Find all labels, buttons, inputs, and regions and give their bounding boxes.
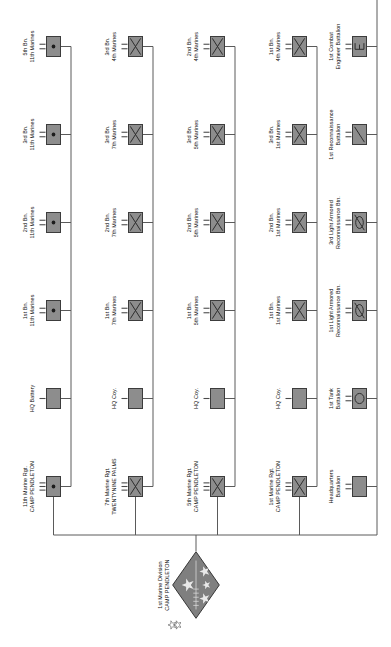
unit-label-line2: Amphibian Battalion — [335, 0, 341, 2]
infantry-symbol-icon — [128, 476, 143, 497]
subunit-7th-marine-rgt-0[interactable]: HQ Coy. — [128, 388, 143, 409]
infantry-symbol-icon — [128, 300, 143, 321]
regiment-7th-marine-rgt[interactable]: 7th Marine Rgt.TWENTYNINE PALMS — [128, 476, 143, 497]
echelon-marker — [120, 213, 129, 232]
subunit-1st-marine-rgt-1[interactable]: 1st Bn.1st Marines — [292, 300, 307, 321]
unit-label-line1: 1st Combat — [328, 32, 334, 61]
unit-label-line2: 11th Marines — [29, 92, 35, 178]
unit-label-line2: 5th Marines — [193, 92, 199, 178]
echelon-marker — [202, 389, 211, 408]
infantry-symbol-icon — [128, 124, 143, 145]
separate-battalion-4[interactable]: 1st ReconnaissanceBattalion — [352, 124, 367, 145]
unit-label-line2: 7th Marines — [111, 268, 117, 354]
echelon-marker — [120, 37, 129, 56]
unit-label-line2: 4th Marines — [111, 4, 117, 90]
echelon-marker — [120, 301, 129, 320]
unit-nodes-layer: 11th Marine Rgt.CAMP PENDLETONHQ Battery… — [0, 0, 391, 647]
subunit-1st-marine-rgt-3-label: 3rd Bn.1st Marines — [268, 92, 281, 178]
unit-label-line1: 2nd Bn. — [268, 213, 274, 232]
subunit-5th-marine-rgt-3[interactable]: 3rd Bn.5th Marines — [210, 124, 225, 145]
artillery-symbol-icon — [46, 476, 61, 497]
subunit-5th-marine-rgt-3-label: 3rd Bn.5th Marines — [186, 92, 199, 178]
artillery-symbol-icon — [46, 36, 61, 57]
unit-label-line1: 3rd Bn. — [268, 125, 274, 143]
echelon-marker — [120, 477, 129, 496]
subunit-11th-marine-rgt-3-label: 3rd Bn.11th Marines — [22, 92, 35, 178]
unit-label-line2: 4th Marines — [275, 4, 281, 90]
recon-symbol-icon — [352, 124, 367, 145]
plain-symbol-icon — [46, 388, 61, 409]
infantry-symbol-icon — [210, 36, 225, 57]
infantry-symbol-icon — [210, 212, 225, 233]
unit-label-line2: Engineer Battalion — [335, 4, 341, 90]
subunit-7th-marine-rgt-1[interactable]: 1st Bn.7th Marines — [128, 300, 143, 321]
separate-battalion-3-label: 3rd Light ArmoredReconnaissance Btn. — [328, 180, 341, 266]
echelon-marker — [344, 477, 353, 496]
unit-label-line2: 7th Marines — [111, 92, 117, 178]
subunit-5th-marine-rgt-2-label: 2nd Bn.5th Marines — [186, 180, 199, 266]
unit-label-line2: 7th Marines — [111, 180, 117, 266]
subunit-7th-marine-rgt-3[interactable]: 3rd Bn.7th Marines — [128, 124, 143, 145]
unit-label-line1: 11th Marine Rgt. — [22, 466, 28, 507]
infantry-symbol-icon — [292, 300, 307, 321]
unit-label-line2: Battalion — [335, 444, 341, 530]
subunit-1st-marine-rgt-4-label: 1st Bn.4th Marines — [268, 4, 281, 90]
subunit-1st-marine-rgt-2-label: 2nd Bn.1st Marines — [268, 180, 281, 266]
subunit-11th-marine-rgt-1[interactable]: 1st Bn.11th Marines — [46, 300, 61, 321]
unit-label-line1: 1st Bn. — [268, 38, 274, 55]
unit-label-line2: 4th Marines — [193, 4, 199, 90]
echelon-marker — [284, 213, 293, 232]
echelon-marker — [120, 125, 129, 144]
unit-label-line2: Reconnaissance Btn. — [335, 268, 341, 354]
echelon-marker — [284, 37, 293, 56]
subunit-1st-marine-rgt-2[interactable]: 2nd Bn.1st Marines — [292, 212, 307, 233]
subunit-1st-marine-rgt-0[interactable]: HQ Coy. — [292, 388, 307, 409]
separate-battalion-0-label: HeadquartersBattalion — [328, 444, 341, 530]
separate-battalion-5[interactable]: 1st CombatEngineer Battalion — [352, 36, 367, 57]
regiment-11th-marine-rgt[interactable]: 11th Marine Rgt.CAMP PENDLETON — [46, 476, 61, 497]
unit-label-line1: 1st Bn. — [186, 302, 192, 319]
unit-label-line2: Battalion — [335, 92, 341, 178]
division-location: CAMP PENDLETON — [164, 530, 170, 640]
subunit-5th-marine-rgt-1-label: 1st Bn.5th Marines — [186, 268, 199, 354]
unit-label-line2: CAMP PENDLETON — [193, 444, 199, 530]
echelon-marker — [38, 477, 47, 496]
subunit-11th-marine-rgt-4[interactable]: 5th Bn.11th Marines — [46, 36, 61, 57]
subunit-7th-marine-rgt-2[interactable]: 2nd Bn.7th Marines — [128, 212, 143, 233]
chart-viewport: 11th Marine Rgt.CAMP PENDLETONHQ Battery… — [0, 0, 391, 647]
subunit-5th-marine-rgt-1[interactable]: 1st Bn.5th Marines — [210, 300, 225, 321]
unit-label-line1: 2nd Bn. — [104, 213, 110, 232]
separate-battalion-2[interactable]: 1st Light ArmoredReconnaissance Btn. — [352, 300, 367, 321]
unit-label-line1: 5th Marine Rgt. — [186, 467, 192, 505]
unit-label-line1: HQ Battery — [29, 385, 35, 413]
regiment-7th-marine-rgt-label: 7th Marine Rgt.TWENTYNINE PALMS — [104, 444, 117, 530]
regiment-1st-marine-rgt[interactable]: 1st Marine Rgt.CAMP PENDLETON — [292, 476, 307, 497]
subunit-1st-marine-rgt-4[interactable]: 1st Bn.4th Marines — [292, 36, 307, 57]
division-label: 1st Marine Division CAMP PENDLETON — [157, 530, 170, 640]
separate-battalion-0[interactable]: HeadquartersBattalion — [352, 476, 367, 497]
subunit-11th-marine-rgt-2[interactable]: 2nd Bn.11th Marines — [46, 212, 61, 233]
separate-battalion-1[interactable]: 1st TankBattalion — [352, 388, 367, 409]
unit-label-line1: 1st Reconnaissance — [328, 109, 334, 159]
subunit-11th-marine-rgt-0[interactable]: HQ Battery — [46, 388, 61, 409]
unit-label-line1: 1st Bn. — [104, 302, 110, 319]
subunit-7th-marine-rgt-2-label: 2nd Bn.7th Marines — [104, 180, 117, 266]
unit-label-line2: CAMP PENDLETON — [275, 444, 281, 530]
subunit-7th-marine-rgt-1-label: 1st Bn.7th Marines — [104, 268, 117, 354]
subunit-5th-marine-rgt-2[interactable]: 2nd Bn.5th Marines — [210, 212, 225, 233]
separate-battalion-3[interactable]: 3rd Light ArmoredReconnaissance Btn. — [352, 212, 367, 233]
regiment-5th-marine-rgt[interactable]: 5th Marine Rgt.CAMP PENDLETON — [210, 476, 225, 497]
subunit-5th-marine-rgt-0[interactable]: HQ Coy. — [210, 388, 225, 409]
unit-label-line1: 1st Bn. — [22, 302, 28, 319]
subunit-11th-marine-rgt-3[interactable]: 3rd Bn.11th Marines — [46, 124, 61, 145]
org-chart-canvas: 11th Marine Rgt.CAMP PENDLETONHQ Battery… — [0, 0, 391, 647]
echelon-marker — [38, 37, 47, 56]
unit-label-line1: 3rd Light Armored — [328, 200, 334, 245]
infantry-symbol-icon — [210, 124, 225, 145]
echelon-marker — [284, 477, 293, 496]
subunit-7th-marine-rgt-4[interactable]: 3rd Bn.4th Marines — [128, 36, 143, 57]
subunit-1st-marine-rgt-3[interactable]: 3rd Bn.1st Marines — [292, 124, 307, 145]
subunit-5th-marine-rgt-4[interactable]: 2nd Bn.4th Marines — [210, 36, 225, 57]
artillery-symbol-icon — [46, 212, 61, 233]
separate-battalion-5-label: 1st CombatEngineer Battalion — [328, 4, 341, 90]
